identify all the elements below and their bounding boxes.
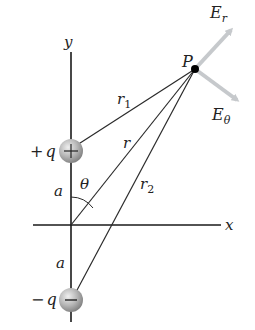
- negative-charge: −q: [31, 288, 83, 312]
- r1-line: [77, 69, 195, 145]
- r1-label: r1: [117, 90, 131, 111]
- point-P-label: P: [181, 52, 193, 71]
- distance-labels: r1 r r2 a a θ: [54, 90, 154, 272]
- distance-lines: [71, 69, 195, 292]
- positive-charge: +q: [30, 139, 83, 163]
- y-axis-label: y: [63, 33, 73, 51]
- a-lower-label: a: [56, 254, 65, 272]
- x-axis-label: x: [225, 216, 234, 234]
- field-vectors: Er Eθ: [195, 3, 237, 127]
- theta-label: θ: [80, 175, 89, 193]
- r2-label: r2: [140, 175, 154, 196]
- E-theta-arrow: [195, 69, 237, 100]
- theta-arc: [71, 197, 93, 208]
- positive-charge-label: +q: [30, 142, 56, 161]
- r2-line: [76, 69, 195, 292]
- E-theta-label: Eθ: [211, 105, 231, 127]
- r-label: r: [123, 134, 131, 152]
- negative-charge-label: −q: [31, 290, 57, 309]
- E-r-arrow: [195, 30, 231, 69]
- dipole-diagram: y x Er Eθ P +q −q: [0, 0, 255, 330]
- point-P: P: [181, 52, 199, 73]
- E-r-label: Er: [209, 3, 228, 25]
- a-upper-label: a: [54, 182, 63, 200]
- r-line: [71, 69, 195, 225]
